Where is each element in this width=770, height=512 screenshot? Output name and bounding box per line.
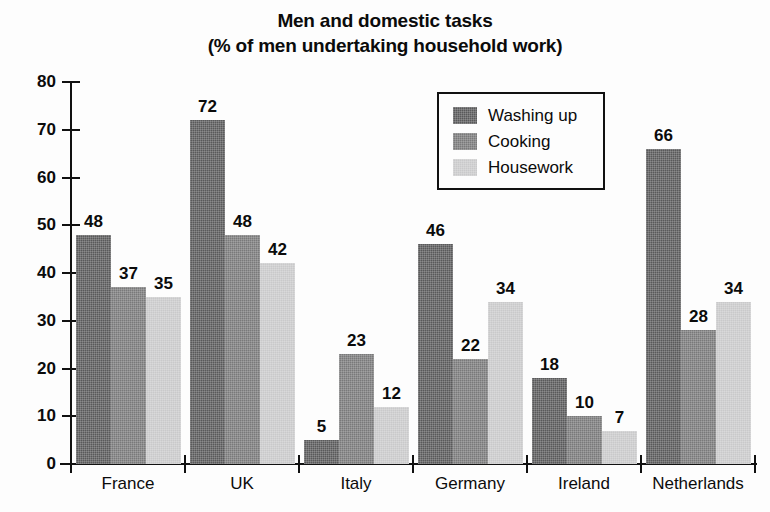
category-label-germany: Germany bbox=[413, 474, 527, 493]
bar-value-label: 35 bbox=[146, 275, 181, 292]
y-axis-tick-label: 0 bbox=[16, 455, 56, 472]
bar-cooking-ireland bbox=[567, 416, 602, 464]
bar-value-label: 37 bbox=[111, 265, 146, 282]
bar-value-label: 34 bbox=[488, 280, 523, 297]
x-axis-tick bbox=[754, 455, 756, 473]
y-axis-tick-label: 10 bbox=[16, 407, 56, 424]
bar-value-label: 42 bbox=[260, 241, 295, 258]
legend-item-washing-up: Washing up bbox=[453, 104, 577, 126]
bar-housework-netherlands bbox=[716, 302, 751, 464]
legend-label: Housework bbox=[488, 158, 573, 177]
y-axis-tick bbox=[62, 129, 80, 131]
y-axis-tick-label: 70 bbox=[16, 121, 56, 138]
category-label-netherlands: Netherlands bbox=[641, 474, 755, 493]
chart-page: Men and domestic tasks (% of men underta… bbox=[0, 0, 770, 512]
category-label-uk: UK bbox=[185, 474, 299, 493]
bar-washing-up-france bbox=[76, 235, 111, 464]
category-label-italy: Italy bbox=[299, 474, 413, 493]
bar-value-label: 7 bbox=[602, 409, 637, 426]
legend: Washing upCookingHousework bbox=[437, 92, 605, 190]
bar-housework-ireland bbox=[602, 431, 637, 464]
legend-item-housework: Housework bbox=[453, 156, 573, 178]
category-label-france: France bbox=[71, 474, 185, 493]
legend-label: Washing up bbox=[488, 106, 577, 125]
bar-washing-up-ireland bbox=[532, 378, 567, 464]
bar-housework-germany bbox=[488, 302, 523, 464]
bar-value-label: 34 bbox=[716, 280, 751, 297]
bar-value-label: 72 bbox=[190, 98, 225, 115]
y-axis-tick-label: 20 bbox=[16, 360, 56, 377]
bar-housework-france bbox=[146, 297, 181, 464]
bar-cooking-netherlands bbox=[681, 330, 716, 464]
bar-housework-uk bbox=[260, 263, 295, 464]
bar-value-label: 66 bbox=[646, 127, 681, 144]
bar-cooking-uk bbox=[225, 235, 260, 464]
bar-value-label: 48 bbox=[76, 213, 111, 230]
bar-value-label: 18 bbox=[532, 356, 567, 373]
bar-cooking-germany bbox=[453, 359, 488, 464]
y-axis-tick bbox=[62, 81, 80, 83]
washing-up-swatch bbox=[453, 107, 477, 124]
bar-washing-up-germany bbox=[418, 244, 453, 464]
y-axis-tick-label: 50 bbox=[16, 216, 56, 233]
plot-area: 01020304050607080 4837357248425231246223… bbox=[0, 0, 770, 512]
x-axis-tick bbox=[184, 455, 186, 473]
cooking-swatch bbox=[453, 133, 477, 150]
category-label-ireland: Ireland bbox=[527, 474, 641, 493]
y-axis-tick-label: 60 bbox=[16, 169, 56, 186]
bar-washing-up-italy bbox=[304, 440, 339, 464]
x-axis-tick bbox=[640, 455, 642, 473]
x-axis-tick bbox=[298, 455, 300, 473]
bar-value-label: 46 bbox=[418, 222, 453, 239]
bar-washing-up-uk bbox=[190, 120, 225, 464]
bar-cooking-france bbox=[111, 287, 146, 464]
bar-cooking-italy bbox=[339, 354, 374, 464]
bar-value-label: 28 bbox=[681, 308, 716, 325]
bar-value-label: 23 bbox=[339, 332, 374, 349]
x-axis-tick bbox=[70, 455, 72, 473]
y-axis-tick bbox=[62, 177, 80, 179]
bar-housework-italy bbox=[374, 407, 409, 464]
legend-label: Cooking bbox=[488, 132, 550, 151]
x-axis-tick bbox=[412, 455, 414, 473]
bar-value-label: 22 bbox=[453, 337, 488, 354]
bar-value-label: 5 bbox=[304, 418, 339, 435]
bar-value-label: 12 bbox=[374, 385, 409, 402]
legend-item-cooking: Cooking bbox=[453, 130, 550, 152]
y-axis-tick-label: 30 bbox=[16, 312, 56, 329]
bar-value-label: 48 bbox=[225, 213, 260, 230]
x-axis-tick bbox=[526, 455, 528, 473]
bar-washing-up-netherlands bbox=[646, 149, 681, 464]
housework-swatch bbox=[453, 159, 477, 176]
y-axis-tick-label: 80 bbox=[16, 73, 56, 90]
y-axis-tick-label: 40 bbox=[16, 264, 56, 281]
bar-value-label: 10 bbox=[567, 394, 602, 411]
